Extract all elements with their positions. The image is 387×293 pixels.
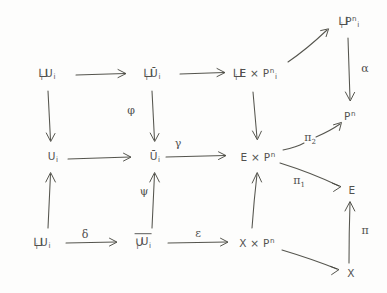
node-n10-subscript: i: [48, 241, 51, 250]
node-n6-subscript: i: [158, 155, 161, 164]
node-X: X: [347, 268, 355, 279]
arrow-union-ExP-to-union-P: [288, 29, 329, 62]
arrow-union-U-to-union-Ubar: [76, 70, 126, 78]
node-union-ExP: ⊔iE × Pni: [233, 66, 278, 82]
node-n5-base: U: [48, 150, 56, 162]
arrow-union-Ubar-to-union-ExP: [180, 69, 225, 77]
node-n8-base: P: [344, 110, 351, 122]
node-P: Pn: [344, 110, 356, 121]
node-n7-superscript: n: [270, 150, 275, 159]
node-n13-base: X: [347, 267, 355, 279]
node-n2-base: Ū: [150, 67, 158, 79]
arrow-XxP-to-ExP: [252, 173, 262, 229]
node-n1-base: U: [45, 67, 53, 79]
node-n3-operator-index: i: [235, 74, 237, 83]
node-n5-subscript: i: [56, 155, 59, 164]
label-pi: π: [361, 225, 368, 236]
node-n6-base: Ū: [150, 150, 158, 162]
node-n4-operator-index: i: [341, 22, 343, 31]
node-n11-subscript: i: [149, 241, 152, 250]
label-gamma-text: γ: [175, 137, 182, 150]
label-gamma: γ: [175, 138, 182, 149]
node-n3-subscript: i: [275, 72, 278, 81]
node-n4-subscript: i: [357, 20, 360, 29]
node-ExP: E × Pn: [240, 151, 275, 162]
label-alpha: α: [361, 63, 368, 74]
node-n3-base: E × P: [239, 67, 269, 79]
label-delta: δ: [82, 229, 89, 240]
arrow-union-ExP-to-ExP: [253, 92, 262, 140]
node-XxP: X × Pn: [239, 237, 275, 248]
label-pi1-subscript: 1: [300, 181, 304, 189]
label-epsilon-text: ε: [195, 227, 201, 240]
label-pi1: π1: [293, 175, 305, 188]
arrow-Ubar-to-ExP-gamma: [166, 152, 226, 160]
node-n4-superscript: n: [352, 14, 357, 23]
arrow-layer: [0, 0, 387, 293]
node-n11-base: U: [141, 236, 149, 248]
label-pi-text: π: [361, 224, 368, 237]
node-n11-overline-group: ∪iUi: [135, 236, 152, 248]
arrow-ExP-to-E-pi1: [280, 163, 341, 191]
node-n10-operator-index: i: [36, 243, 38, 252]
node-E: E: [349, 185, 356, 196]
arrow-X-to-E-pi: [345, 202, 355, 264]
label-pi2: π2: [304, 132, 316, 145]
arrow-union-P-to-P-alpha: [345, 38, 354, 101]
node-n9-base: E: [349, 184, 356, 196]
arrow-XxP-to-X: [282, 250, 339, 275]
node-n2-operator-index: i: [146, 74, 148, 83]
label-alpha-text: α: [361, 62, 368, 75]
node-union-Ubar: ⊔iŪi: [143, 66, 160, 82]
arrow-closure-union-U-to-Ubar-psi: [150, 173, 160, 229]
label-phi-text: φ: [127, 104, 135, 117]
label-phi: φ: [127, 105, 135, 116]
node-union-U: ⊔iUi: [38, 66, 55, 82]
node-Ubar: Ūi: [150, 151, 161, 164]
arrow-union-U-bottom-to-U: [46, 173, 56, 229]
node-union-U-bottom: ⊔iUi: [33, 235, 50, 251]
arrow-union-U-to-closure-union-U-delta: [66, 238, 117, 246]
diagram-canvas: ⊔iUi ⊔iŪi ⊔iE × Pni ⊔iPni Ui Ūi E × Pn P…: [0, 0, 387, 293]
node-n7-base: E × P: [240, 151, 270, 163]
node-n10-base: U: [40, 236, 48, 248]
arrow-U-to-Ubar: [68, 153, 131, 161]
arrow-union-U-to-U: [46, 91, 55, 142]
node-closure-union-U: ∪iUi: [135, 235, 152, 251]
node-n2-subscript: i: [158, 72, 161, 81]
node-n12-superscript: n: [270, 236, 275, 245]
node-n12-base: X × P: [239, 237, 270, 249]
label-psi: ψ: [140, 186, 149, 197]
node-U: Ui: [48, 151, 59, 164]
label-delta-text: δ: [82, 228, 89, 241]
node-n8-superscript: n: [351, 109, 356, 118]
node-n1-operator-index: i: [41, 74, 43, 83]
node-n11-operator-index: i: [136, 243, 138, 252]
arrow-union-Ubar-to-Ubar-phi: [150, 91, 159, 142]
node-union-P: ⊔iPni: [338, 14, 359, 30]
node-n1-subscript: i: [53, 72, 56, 81]
label-epsilon: ε: [195, 228, 201, 239]
label-psi-text: ψ: [140, 185, 149, 198]
label-pi2-subscript: 2: [311, 138, 315, 146]
